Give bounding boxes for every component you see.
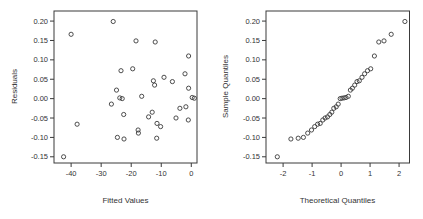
data-point xyxy=(155,136,159,140)
y-tick-label: 0.05 xyxy=(245,75,260,84)
data-point xyxy=(187,54,191,58)
data-point xyxy=(306,131,310,135)
data-point xyxy=(115,135,119,139)
x-tick-label: -1 xyxy=(309,169,316,178)
data-point xyxy=(75,122,79,126)
data-point xyxy=(309,128,313,132)
data-point xyxy=(151,79,155,83)
data-point xyxy=(389,32,393,36)
y-tick-label: 0.00 xyxy=(33,94,48,103)
plot-box xyxy=(266,11,410,163)
data-point xyxy=(134,39,138,43)
y-tick-label: -0.15 xyxy=(31,152,48,161)
data-point xyxy=(114,88,118,92)
data-point xyxy=(187,86,191,90)
residuals-vs-fitted-plot: -40-30-20-1000.200.150.100.050.00-0.05-0… xyxy=(31,11,197,178)
data-point xyxy=(153,40,157,44)
y-axis-label-sample-quantiles: Sample Quantiles xyxy=(220,11,231,163)
data-point xyxy=(183,72,187,76)
data-point xyxy=(369,67,373,71)
data-point xyxy=(147,115,151,119)
data-point xyxy=(109,102,113,106)
data-point xyxy=(155,121,159,125)
data-point xyxy=(140,94,144,98)
data-point xyxy=(62,155,66,159)
y-tick-label: 0.00 xyxy=(245,94,260,103)
data-point xyxy=(184,105,188,109)
y-tick-label: 0.10 xyxy=(33,55,48,64)
y-tick-label: 0.10 xyxy=(245,55,260,64)
x-tick-label: -2 xyxy=(280,169,287,178)
data-point xyxy=(377,40,381,44)
data-point xyxy=(275,155,279,159)
x-axis-label-theoretical-quantiles: Theoretical Quantiles xyxy=(266,196,409,206)
data-point xyxy=(122,112,126,116)
data-point xyxy=(131,67,135,71)
data-point xyxy=(178,106,182,110)
y-tick-label: -0.05 xyxy=(243,114,260,123)
y-tick-label: -0.10 xyxy=(243,133,260,142)
x-tick-label: -10 xyxy=(156,169,167,178)
data-point xyxy=(122,137,126,141)
figure: -40-30-20-1000.200.150.100.050.00-0.05-0… xyxy=(0,0,423,219)
data-point xyxy=(159,125,163,129)
data-point xyxy=(111,19,115,23)
y-tick-label: -0.05 xyxy=(31,114,48,123)
data-point xyxy=(296,136,300,140)
plots-canvas: -40-30-20-1000.200.150.100.050.00-0.05-0… xyxy=(0,0,423,219)
normal-qq-plot: -2-10120.200.150.100.050.00-0.05-0.10-0.… xyxy=(243,11,410,178)
data-point xyxy=(174,116,178,120)
y-tick-label: -0.15 xyxy=(243,152,260,161)
normal-qq-points xyxy=(275,19,407,159)
data-point xyxy=(162,75,166,79)
data-point xyxy=(170,80,174,84)
x-tick-label: 1 xyxy=(368,169,372,178)
y-tick-label: 0.20 xyxy=(33,17,48,26)
x-tick-label: -40 xyxy=(66,169,77,178)
data-point xyxy=(186,118,190,122)
residuals-vs-fitted-points xyxy=(62,19,197,159)
x-tick-label: -30 xyxy=(96,169,107,178)
data-point xyxy=(119,69,123,73)
data-point xyxy=(153,83,157,87)
y-axis-label-residuals: Residuals xyxy=(9,11,20,163)
y-tick-label: 0.15 xyxy=(33,36,48,45)
y-tick-label: 0.20 xyxy=(245,17,260,26)
y-tick-label: 0.15 xyxy=(245,36,260,45)
x-tick-label: 0 xyxy=(189,169,193,178)
data-point xyxy=(301,135,305,139)
x-axis-label-fitted-values: Fitted Values xyxy=(54,196,197,206)
data-point xyxy=(372,54,376,58)
data-point xyxy=(382,39,386,43)
y-tick-label: 0.05 xyxy=(33,75,48,84)
data-point xyxy=(403,19,407,23)
x-tick-label: 0 xyxy=(339,169,343,178)
y-tick-label: -0.10 xyxy=(31,133,48,142)
data-point xyxy=(69,32,73,36)
data-point xyxy=(289,137,293,141)
x-tick-label: -20 xyxy=(126,169,137,178)
x-tick-label: 2 xyxy=(397,169,401,178)
data-point xyxy=(150,110,154,114)
